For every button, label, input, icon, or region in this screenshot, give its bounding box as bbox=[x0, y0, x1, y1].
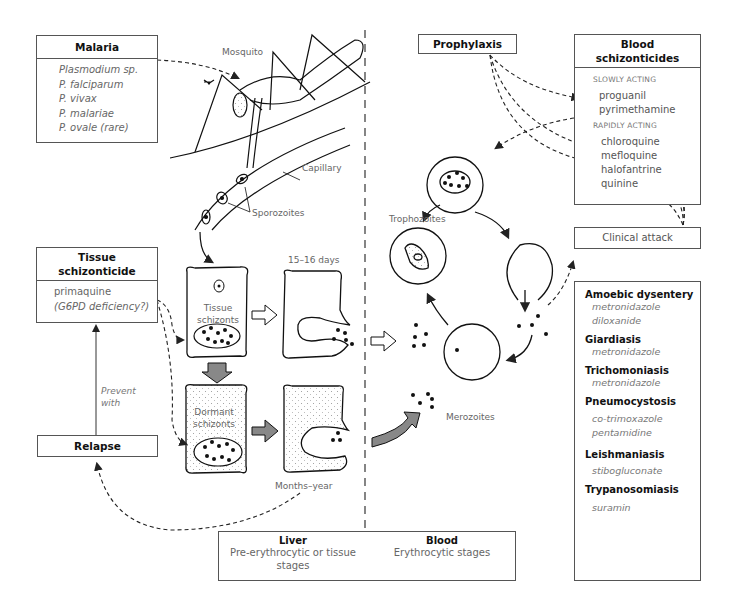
ring-rbc-icon bbox=[444, 324, 500, 380]
legend-liver-desc-2: stages bbox=[219, 559, 367, 572]
merozoites-label: Merozoites bbox=[446, 412, 495, 422]
prophylaxis-box: Prophylaxis bbox=[418, 34, 517, 54]
disease-trichomoniasis: Trichomoniasis bbox=[585, 365, 700, 376]
ruptured-dormant-cell-icon bbox=[284, 385, 348, 472]
rapidly-acting-label: RAPIDLY ACTING bbox=[593, 119, 700, 133]
species-item: P. vivax bbox=[59, 92, 157, 107]
malaria-box: Malaria Plasmodium sp. P. falciparum P. … bbox=[36, 35, 158, 143]
blood-schizonticides-title-2: schizonticides bbox=[577, 51, 698, 65]
sporozoites-label: Sporozoites bbox=[252, 208, 304, 218]
drug-halofantrine: halofantrine bbox=[601, 163, 700, 177]
species-item: Plasmodium sp. bbox=[59, 63, 157, 78]
drug-item: co-trimoxazole bbox=[592, 412, 700, 426]
drug-pyrimethamine: pyrimethamine bbox=[599, 103, 700, 117]
drug-quinine: quinine bbox=[601, 177, 700, 191]
drug-mefloquine: mefloquine bbox=[601, 149, 700, 163]
prophylaxis-title: Prophylaxis bbox=[419, 35, 516, 53]
mosquito-label: Mosquito bbox=[222, 47, 263, 57]
capillary-label: Capillary bbox=[302, 163, 342, 173]
relapse-box: Relapse bbox=[37, 435, 158, 457]
dormant-text: Dormant bbox=[193, 406, 235, 418]
disease-amoebic-dysentery: Amoebic dysentery bbox=[585, 289, 700, 300]
tissue-schizonts-label: Tissue schizonts bbox=[197, 302, 239, 326]
open-arrow-icon bbox=[252, 305, 277, 325]
schizonts-text: schizonts bbox=[193, 418, 235, 430]
days-label: 15–16 days bbox=[288, 255, 340, 265]
drug-primaquine: primaquine bbox=[54, 285, 157, 300]
drug-item: metronidazole bbox=[592, 376, 700, 390]
schizonts-text: schizonts bbox=[197, 314, 239, 326]
disease-giardiasis: Giardiasis bbox=[585, 334, 700, 345]
legend-liver-title: Liver bbox=[219, 535, 367, 546]
slowly-acting-label: SLOWLY ACTING bbox=[593, 73, 700, 87]
drug-item: suramin bbox=[592, 501, 700, 515]
drug-note: (G6PD deficiency?) bbox=[54, 300, 157, 315]
disease-leishmaniasis: Leishmaniasis bbox=[585, 449, 700, 460]
grey-arrow-icon bbox=[252, 420, 278, 442]
with-text: with bbox=[101, 397, 136, 409]
drug-item: pentamidine bbox=[592, 426, 700, 440]
dormant-schizonts-label: Dormant schizonts bbox=[193, 406, 235, 430]
months-label: Months–year bbox=[275, 481, 332, 491]
schizont-rbc-icon bbox=[427, 157, 483, 213]
merozoites-dots bbox=[411, 314, 548, 409]
dormant-arrow-icon bbox=[202, 363, 232, 383]
ruptured-liver-cell-icon bbox=[283, 270, 354, 358]
legend-blood-desc: Erythrocytic stages bbox=[367, 546, 517, 559]
clinical-attack-box: Clinical attack bbox=[574, 227, 701, 249]
clinical-attack-title: Clinical attack bbox=[575, 228, 700, 243]
drug-proguanil: proguanil bbox=[599, 89, 700, 103]
malaria-drug-diagram: Malaria Plasmodium sp. P. falciparum P. … bbox=[0, 0, 737, 609]
blood-schizonticides-title-1: Blood bbox=[577, 37, 698, 51]
trophozoites-label: Trophozoites bbox=[389, 214, 446, 224]
tissue-schizonticide-title-1: Tissue bbox=[39, 250, 155, 264]
disease-pneumocystosis: Pneumocystosis bbox=[585, 396, 700, 407]
drug-item: stibogluconate bbox=[592, 464, 700, 478]
prevent-text: Prevent bbox=[101, 385, 136, 397]
blood-schizonticides-box: Blood schizonticides SLOWLY ACTING progu… bbox=[574, 34, 701, 205]
curved-grey-arrow-icon bbox=[372, 412, 420, 447]
malaria-title: Malaria bbox=[37, 36, 157, 59]
drug-item: metronidazole bbox=[592, 345, 700, 359]
disease-trypanosomiasis: Trypanosomiasis bbox=[585, 484, 700, 495]
drug-item: metronidazole bbox=[592, 300, 700, 314]
tissue-text: Tissue bbox=[197, 302, 239, 314]
other-protozoa-box: Amoebic dysentery metronidazole diloxani… bbox=[574, 281, 701, 581]
relapse-title: Relapse bbox=[38, 436, 157, 456]
open-arrow-blood-icon bbox=[371, 331, 396, 351]
tissue-schizonticide-box: Tissue schizonticide primaquine (G6PD de… bbox=[36, 247, 158, 323]
prevent-with-label: Prevent with bbox=[101, 385, 136, 409]
mosquito-icon bbox=[170, 35, 370, 168]
drug-chloroquine: chloroquine bbox=[601, 135, 700, 149]
tissue-schizonticide-title-2: schizonticide bbox=[39, 264, 155, 278]
drug-item: diloxanide bbox=[592, 314, 700, 328]
legend-blood-title: Blood bbox=[367, 535, 517, 546]
species-item: P. malariae bbox=[59, 107, 157, 122]
species-item: P. falciparum bbox=[59, 78, 157, 93]
legend-box: Liver Pre-erythrocytic or tissue stages … bbox=[218, 531, 516, 581]
species-item: P. ovale (rare) bbox=[59, 121, 157, 136]
legend-liver-desc-1: Pre-erythrocytic or tissue bbox=[219, 546, 367, 559]
